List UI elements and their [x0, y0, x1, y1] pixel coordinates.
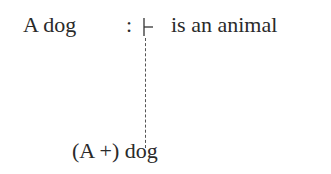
- colon-text: :: [126, 14, 132, 36]
- predicate-text: is an animal: [171, 14, 277, 36]
- dashed-connector: [145, 38, 146, 148]
- subject-text: A dog: [23, 14, 76, 36]
- turnstile-icon: [143, 18, 153, 36]
- bottom-label: (A +) dog: [72, 140, 158, 162]
